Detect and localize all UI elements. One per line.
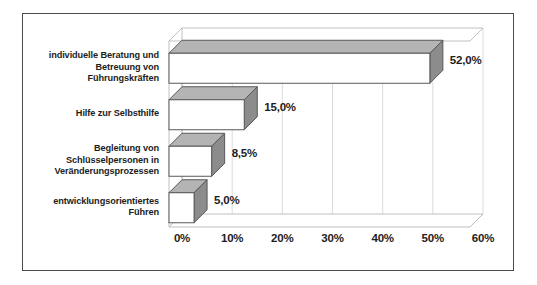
bar-3d bbox=[169, 40, 443, 83]
chart-frame: individuelle Beratung und Betreuung von … bbox=[22, 13, 514, 271]
bar-front-face bbox=[169, 100, 244, 130]
category-label: Hilfe zur Selbsthilfe bbox=[27, 108, 159, 119]
bar-3d bbox=[169, 87, 257, 130]
x-tick-label: 0% bbox=[157, 232, 207, 244]
x-tick-label: 20% bbox=[257, 232, 307, 244]
bar-front-face bbox=[169, 53, 430, 83]
category-label: Begleitung von Schlüsselpersonen in Verä… bbox=[27, 143, 159, 177]
plot-top-edge bbox=[169, 28, 483, 41]
bar-top-face bbox=[169, 87, 257, 100]
x-tick-label: 30% bbox=[308, 232, 358, 244]
bar-top-face bbox=[169, 40, 443, 53]
bar-value-label: 52,0% bbox=[450, 54, 482, 66]
bar-value-label: 15,0% bbox=[264, 101, 296, 113]
plot-floor bbox=[169, 214, 483, 227]
category-label: individuelle Beratung und Betreuung von … bbox=[27, 50, 159, 84]
x-tick-label: 10% bbox=[207, 232, 257, 244]
category-label: entwicklungsorientiertes Führen bbox=[27, 196, 159, 218]
bar-3d bbox=[169, 133, 225, 176]
bar-front-face bbox=[169, 193, 194, 223]
bar-value-label: 5,0% bbox=[214, 194, 239, 206]
x-tick-label: 60% bbox=[458, 232, 508, 244]
bar-front-face bbox=[169, 146, 212, 176]
x-tick-label: 50% bbox=[408, 232, 458, 244]
x-tick-label: 40% bbox=[358, 232, 408, 244]
bar-value-label: 8,5% bbox=[232, 147, 257, 159]
bars-group bbox=[169, 40, 443, 223]
